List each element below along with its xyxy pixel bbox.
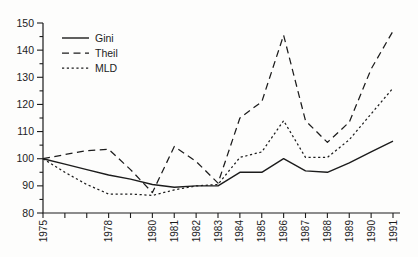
series-line-mld	[43, 88, 393, 195]
x-tick-label: 1983	[213, 220, 224, 243]
x-axis: 1975197819801981198219831984198519861987…	[38, 213, 399, 242]
line-chart: 8090100110120130140150197519781980198119…	[0, 0, 418, 257]
y-tick-label: 150	[16, 17, 34, 29]
y-tick-label: 120	[16, 98, 34, 110]
x-tick-label: 1975	[38, 220, 49, 243]
y-axis: 8090100110120130140150	[16, 17, 43, 219]
x-tick-label: 1991	[388, 220, 399, 243]
legend-item-gini: Gini	[62, 32, 114, 44]
y-tick-label: 110	[17, 125, 34, 137]
legend-item-mld: MLD	[62, 62, 118, 74]
x-tick-label: 1982	[191, 220, 202, 243]
x-tick-label: 1984	[234, 220, 245, 243]
legend: GiniTheilMLD	[62, 32, 118, 74]
legend-label: MLD	[95, 62, 118, 74]
x-tick-label: 1981	[169, 220, 180, 243]
x-tick-label: 1989	[344, 220, 355, 243]
x-tick-label: 1987	[300, 220, 311, 243]
y-tick-label: 80	[22, 207, 34, 219]
y-tick-label: 130	[16, 71, 34, 83]
x-tick-label: 1990	[366, 220, 377, 243]
legend-item-theil: Theil	[62, 47, 118, 59]
y-tick-label: 90	[22, 179, 34, 191]
x-tick-label: 1985	[256, 220, 267, 243]
x-tick-label: 1978	[103, 220, 114, 243]
y-tick-label: 100	[16, 152, 34, 164]
x-tick-label: 1986	[278, 220, 289, 243]
series-line-gini	[43, 141, 393, 187]
legend-label: Theil	[95, 47, 118, 59]
x-tick-label: 1980	[147, 220, 158, 243]
x-tick-label: 1988	[322, 220, 333, 243]
inequality-index-chart-figure: 8090100110120130140150197519781980198119…	[0, 0, 418, 257]
legend-label: Gini	[95, 32, 114, 44]
y-tick-label: 140	[16, 44, 34, 56]
